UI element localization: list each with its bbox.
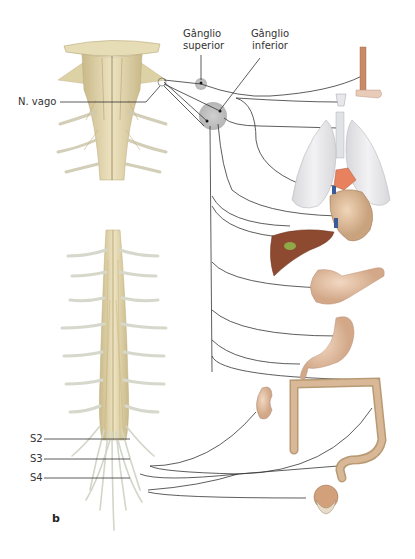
bladder-illustration: [314, 485, 338, 514]
label-ganglion-superior: Gânglio superior: [183, 28, 219, 52]
brainstem-illustration: [58, 40, 166, 180]
label-ganglion-superior-line2: superior: [183, 40, 219, 52]
pancreas-illustration: [310, 268, 384, 305]
label-s4: S4: [30, 472, 43, 484]
kidney-illustration: [256, 387, 272, 419]
label-ganglion-superior-line1: Gânglio: [183, 28, 219, 40]
tongue-illustration: [356, 47, 382, 98]
stomach-illustration: [300, 317, 354, 380]
label-s3: S3: [30, 453, 43, 465]
spinal-cord-illustration: [62, 230, 166, 530]
label-s2: S2: [30, 433, 43, 445]
colon-illustration: [294, 382, 382, 478]
liver-illustration: [270, 230, 334, 276]
diagram-canvas: [0, 0, 415, 559]
label-ganglion-inferior: Gânglio inferior: [250, 28, 290, 52]
label-ganglion-inferior-line2: inferior: [250, 40, 290, 52]
label-vagus-nerve: N. vago: [18, 96, 56, 108]
panel-letter: b: [52, 512, 60, 525]
larynx-illustration: [336, 94, 346, 106]
label-ganglion-inferior-line1: Gânglio: [250, 28, 290, 40]
